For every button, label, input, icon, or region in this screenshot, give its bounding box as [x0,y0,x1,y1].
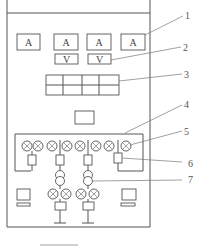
voltmeter-row: V V [55,54,111,65]
callout-5: 5 [184,126,189,137]
side-terminal-right [121,189,136,206]
callout-4: 4 [184,99,189,110]
callout-numbers: 1 2 3 4 5 6 7 [183,10,193,185]
center-switch [75,111,94,124]
ammeter-row: A A A A [17,34,145,50]
lamp-3 [47,141,57,151]
control-panel-diagram: A A A A V V [0,0,200,252]
lamp-5 [75,141,85,151]
callout-2: 2 [183,42,188,53]
callout-1: 1 [185,10,190,21]
indicator-lamp-row-top [22,141,131,151]
callout-7: 7 [188,174,193,185]
voltmeter-2-label: V [96,54,104,65]
transformer-right [84,171,93,190]
ammeter-2-label: A [62,37,70,48]
callout-6: 6 [188,158,193,169]
lamp-7 [104,141,114,151]
callout-3: 3 [184,69,189,80]
transformer-left [56,171,65,190]
output-switches [54,199,94,223]
ammeter-3-label: A [95,37,103,48]
lamp-8 [121,141,131,151]
lamp-4 [62,141,72,151]
side-terminal-left [17,189,30,206]
switch-grid [46,75,119,95]
lamp-6 [91,141,101,151]
ammeter-1-label: A [25,37,33,48]
lamp-1 [22,141,32,151]
ammeter-4-label: A [129,37,137,48]
voltmeter-1-label: V [63,54,71,65]
lamp-2 [33,141,43,151]
indicator-lamp-row-bottom [48,189,99,199]
